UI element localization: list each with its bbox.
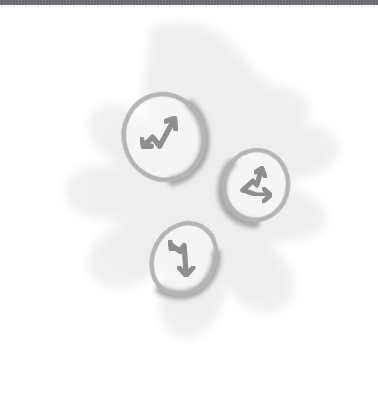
screenshot-canvas: Three sketched coins with zigzag trend a…: [0, 0, 378, 400]
sketch-illustration: [0, 5, 378, 400]
